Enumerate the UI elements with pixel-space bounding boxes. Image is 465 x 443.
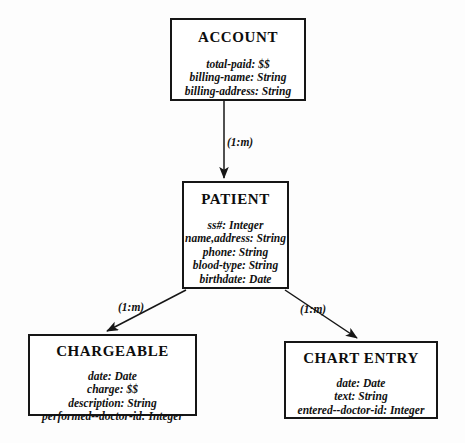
attribute-list-chart-entry: date: Date text: String entered--doctor-… bbox=[286, 377, 436, 417]
entity-box-chargeable[interactable]: CHARGEABLE date: Date charge: $$ descrip… bbox=[28, 334, 197, 416]
attribute-row: blood-type: String bbox=[184, 259, 287, 272]
attribute-row: charge: $$ bbox=[30, 383, 195, 396]
attribute-row: date: Date bbox=[286, 377, 436, 390]
attribute-list-account: total-paid: $$ billing-name: String bill… bbox=[172, 58, 304, 98]
attribute-row: phone: String bbox=[184, 246, 287, 259]
attribute-row: name,address: String bbox=[184, 232, 287, 245]
attribute-row: billing-address: String bbox=[172, 85, 304, 98]
entity-box-account[interactable]: ACCOUNT total-paid: $$ billing-name: Str… bbox=[170, 18, 306, 101]
cardinality-label-patient-chart-entry: (1:m) bbox=[300, 303, 326, 315]
entity-title-chart-entry: CHART ENTRY bbox=[286, 350, 436, 367]
attribute-row: ss#: Integer bbox=[184, 219, 287, 232]
attribute-row: description: String bbox=[30, 397, 195, 410]
attribute-row: birthdate: Date bbox=[184, 273, 287, 286]
entity-title-account: ACCOUNT bbox=[172, 29, 304, 46]
entity-box-patient[interactable]: PATIENT ss#: Integer name,address: Strin… bbox=[182, 181, 289, 289]
cardinality-label-patient-chargeable: (1:m) bbox=[118, 301, 144, 313]
attribute-row: entered--doctor-id: Integer bbox=[286, 404, 436, 417]
entity-box-chart-entry[interactable]: CHART ENTRY date: Date text: String ente… bbox=[284, 341, 438, 419]
cardinality-label-account-patient: (1:m) bbox=[227, 136, 253, 148]
attribute-list-chargeable: date: Date charge: $$ description: Strin… bbox=[30, 370, 195, 424]
er-diagram-canvas: ACCOUNT total-paid: $$ billing-name: Str… bbox=[0, 0, 465, 443]
attribute-row: performed--doctor-id: Integer bbox=[30, 410, 195, 423]
entity-title-patient: PATIENT bbox=[184, 191, 287, 208]
attribute-row: billing-name: String bbox=[172, 71, 304, 84]
attribute-row: text: String bbox=[286, 390, 436, 403]
attribute-row: date: Date bbox=[30, 370, 195, 383]
entity-title-chargeable: CHARGEABLE bbox=[30, 343, 195, 360]
attribute-row: total-paid: $$ bbox=[172, 58, 304, 71]
attribute-list-patient: ss#: Integer name,address: String phone:… bbox=[184, 219, 287, 286]
